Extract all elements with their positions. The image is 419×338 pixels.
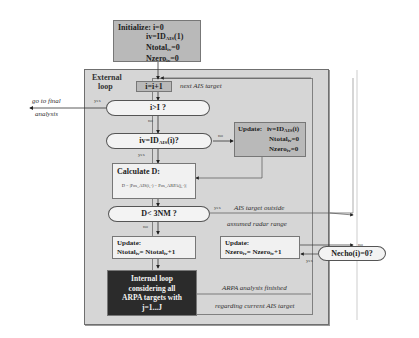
ais-target-outside-note: AIS target outside <box>234 204 284 212</box>
decision-i-greater-I: i>I ? <box>106 100 210 116</box>
calculate-d-box: Calculate D: D = |Pos_AIS(i,·) − Pos_ARP… <box>112 163 196 199</box>
yes-label: yes <box>214 205 221 210</box>
yes-label: yes <box>138 152 145 157</box>
update-nzero-line: Nzeroiv= Nzeroiv+1 <box>225 248 295 258</box>
yes-label: yes <box>306 258 313 263</box>
next-ais-target-note: next AIS target <box>180 82 222 90</box>
increment-box: i=i+1 <box>136 81 172 92</box>
no-label: no <box>218 133 223 138</box>
regarding-current-ais-note: regarding current AIS target <box>215 302 295 310</box>
connector-lines <box>0 0 419 338</box>
initialize-title: Initialize: i=0 <box>118 23 196 32</box>
update-iv-line3: Nzeroiv=0 <box>238 145 302 155</box>
go-to-final-analysis-note: go to final analysis <box>32 97 61 118</box>
update-iv-line2: Ntotaliv=0 <box>238 135 302 145</box>
initialize-nzero-line: Nzeroiv=0 <box>118 54 196 65</box>
update-ntotal-box: Update: Ntotaliv= Ntotaliv+1 <box>112 236 196 259</box>
calculate-d-title: Calculate D: <box>117 167 191 176</box>
yes-label: yes <box>94 98 101 103</box>
no-label: no <box>358 242 363 247</box>
decision-iv-equals-id: iv=IDAIS(i)? <box>106 133 212 149</box>
no-label: no <box>148 118 153 123</box>
decision-necho-zero: Necho(i)=0? <box>318 246 386 261</box>
distance-formula: D = |Pos_AIS(i,·) − Pos_ARPA(j,·)| <box>117 181 191 190</box>
initialize-ntotal-line: Ntotaliv=0 <box>118 43 196 54</box>
no-label: no <box>143 224 148 229</box>
initialize-box: Initialize: i=0 iv=IDAIS(1) Ntotaliv=0 N… <box>113 20 201 62</box>
update-ntotal-line: Ntotaliv= Ntotaliv+1 <box>117 248 191 258</box>
external-loop-label: External loop <box>92 73 122 91</box>
internal-loop-box: Internal loop considering all ARPA targe… <box>107 270 197 316</box>
decision-d-less-3nm: D< 3NM ? <box>108 206 210 222</box>
update-nzero-box: Update: Nzeroiv= Nzeroiv+1 <box>220 236 300 259</box>
arpa-analysis-finished-note: ARPA analysis finished <box>222 284 287 292</box>
assumed-radar-range-note: assumed radar range <box>227 220 287 228</box>
update-iv-box: Update: iv=IDAIS(i) Ntotaliv=0 Nzeroiv=0 <box>234 122 306 157</box>
update-iv-line1: Update: iv=IDAIS(i) <box>238 125 302 135</box>
initialize-iv-line: iv=IDAIS(1) <box>118 32 196 43</box>
